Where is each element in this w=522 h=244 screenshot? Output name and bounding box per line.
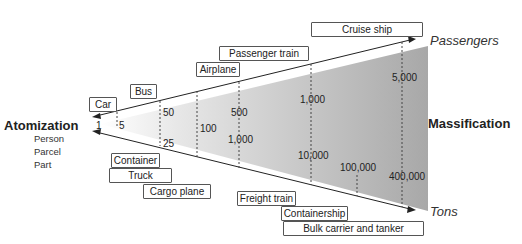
massification-title: Massification [428,116,510,131]
atomization-item-person: Person [34,133,64,144]
mode-airplane: Airplane [196,62,240,77]
tons-value-10000: 10,000 [298,150,329,161]
passengers-value-500: 500 [231,107,248,118]
mode-cargo-plane: Cargo plane [143,184,211,199]
atomization-title: Atomization [4,118,78,133]
mode-bus: Bus [130,84,157,99]
tons-value-25: 25 [163,138,174,149]
mode-containership: Containership [281,206,348,221]
mode-freight-train: Freight train [237,191,296,206]
mode-car: Car [89,97,117,112]
passengers-value-5: 5 [119,120,125,131]
atomization-item-part: Part [34,159,51,170]
tons-value-1000: 1,000 [228,134,253,145]
tons-value-100000: 100,000 [340,162,376,173]
passengers-value-1000: 1,000 [300,94,325,105]
passengers-value-50: 50 [163,107,174,118]
mode-bulk-carrier-and-tanker: Bulk carrier and tanker [283,221,424,236]
mode-passenger-train: Passenger train [219,46,309,61]
passengers-axis-label: Passengers [430,33,499,48]
passengers-arrowhead [408,36,416,43]
mode-container: Container [111,153,160,168]
tons-value-400000: 400,000 [389,171,425,182]
tons-value-100: 100 [200,123,217,134]
mode-cruise-ship: Cruise ship [311,22,423,37]
passengers-value-5000: 5,000 [392,72,417,83]
atomization-item-parcel: Parcel [34,146,61,157]
mode-truck: Truck [109,168,172,183]
left-top-arrowhead [92,113,101,119]
origin-value: 1 [96,120,102,131]
tons-axis-label: Tons [430,204,458,219]
